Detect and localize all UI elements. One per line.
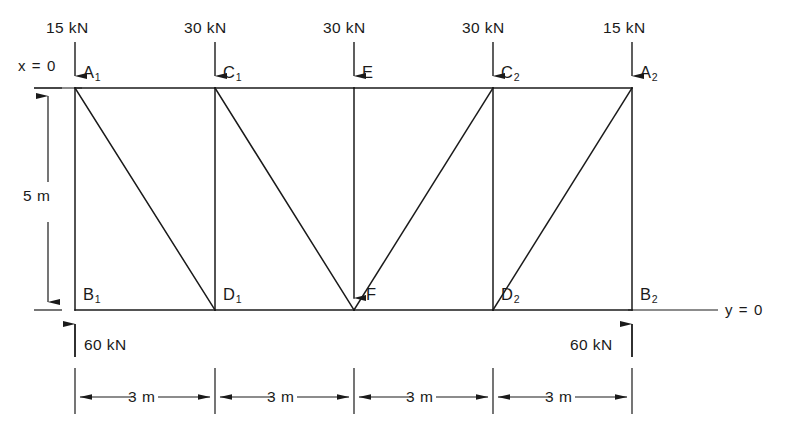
x-origin-label: x = 0	[18, 58, 56, 73]
node-label-D1: D1	[223, 286, 241, 303]
node-subscript-C2: 2	[514, 71, 520, 83]
node-subscript-D1: 1	[236, 293, 242, 305]
node-letter-D2: D	[501, 285, 513, 303]
node-label-C2: C2	[501, 64, 519, 81]
node-letter-B2: B	[640, 285, 651, 303]
bay-dimension-label-1: 3 m	[128, 389, 155, 405]
reaction-label-B1: 60 kN	[84, 337, 127, 353]
node-letter-D1: D	[223, 285, 235, 303]
node-label-B1: B1	[83, 286, 100, 303]
bay-dimension-label-4: 3 m	[545, 389, 572, 405]
truss-members	[75, 88, 632, 310]
load-label-C2: 30 kN	[462, 20, 505, 36]
node-subscript-B2: 2	[652, 293, 658, 305]
node-subscript-B1: 1	[95, 293, 101, 305]
member-C1-F	[215, 88, 354, 310]
load-label-C1: 30 kN	[184, 20, 227, 36]
applied-load-arrows	[75, 42, 632, 76]
node-letter-F: F	[366, 285, 376, 303]
height-dimension-label: 5 m	[23, 188, 50, 204]
node-label-C1: C1	[223, 64, 241, 81]
node-label-E: E	[362, 64, 373, 81]
node-letter-A2: A	[640, 63, 651, 81]
member-A1-D1	[75, 88, 215, 310]
member-F-C2	[354, 88, 493, 310]
node-subscript-A2: 2	[652, 71, 658, 83]
node-label-A2: A2	[640, 64, 657, 81]
node-label-B2: B2	[640, 286, 657, 303]
node-letter-C1: C	[223, 63, 235, 81]
node-label-A1: A1	[83, 64, 100, 81]
node-label-F: F	[366, 286, 376, 303]
node-letter-A1: A	[83, 63, 94, 81]
node-label-D2: D2	[501, 286, 519, 303]
node-letter-C2: C	[501, 63, 513, 81]
node-letter-B1: B	[83, 285, 94, 303]
y-origin-label: y = 0	[725, 302, 763, 317]
load-label-A1: 15 kN	[46, 20, 89, 36]
truss-diagram-figure: 15 kN 30 kN 30 kN 30 kN 15 kN x = 0 y = …	[0, 0, 797, 441]
load-label-A2: 15 kN	[603, 20, 646, 36]
node-letter-E: E	[362, 63, 373, 81]
member-D2-A2	[493, 88, 632, 310]
load-label-E: 30 kN	[323, 20, 366, 36]
axis-reference-lines	[34, 88, 718, 310]
bay-dimension-label-2: 3 m	[267, 389, 294, 405]
reaction-label-B2: 60 kN	[570, 337, 613, 353]
node-subscript-C1: 1	[236, 71, 242, 83]
node-subscript-D2: 2	[514, 293, 520, 305]
truss-drawing-canvas	[0, 0, 797, 441]
reaction-arrows	[75, 324, 632, 357]
bay-dimension-label-3: 3 m	[406, 389, 433, 405]
node-subscript-A1: 1	[95, 71, 101, 83]
